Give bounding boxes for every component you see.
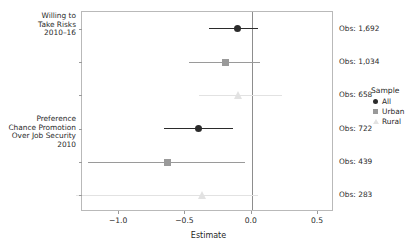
legend-item-label: All: [382, 97, 391, 106]
y-axis-tick: [79, 62, 82, 63]
legend-items: AllUrbanRural: [371, 97, 404, 126]
forest-plot-figure: Willing to Take Risks 2010–16 Preference…: [0, 0, 417, 249]
circle-marker-icon: [371, 99, 380, 104]
observation-count-label: Obs: 1,034: [339, 57, 379, 66]
observation-count-label: Obs: 1,692: [339, 23, 379, 32]
y-axis-tick: [79, 95, 82, 96]
y-axis-tick: [79, 129, 82, 130]
estimate-point-marker: [198, 191, 206, 199]
square-marker-icon: [371, 109, 380, 114]
estimate-point-marker: [195, 125, 202, 132]
legend-item-all[interactable]: All: [371, 97, 404, 106]
observation-count-label: Obs: 283: [339, 190, 372, 199]
legend-item-label: Urban: [382, 107, 404, 116]
estimate-point-marker: [234, 91, 242, 99]
x-axis-tick-label: −1.0: [109, 216, 127, 225]
estimate-point-marker: [234, 25, 241, 32]
estimate-point-marker: [164, 159, 171, 166]
legend: Sample AllUrbanRural: [371, 86, 404, 126]
confidence-interval-bar: [209, 28, 258, 29]
x-axis-title: Estimate: [0, 231, 417, 240]
y-axis-tick: [79, 162, 82, 163]
triangle-marker-icon: [371, 119, 380, 124]
x-axis-tick-label: 0.5: [311, 216, 323, 225]
y-axis-tick: [79, 195, 82, 196]
confidence-interval-bar: [76, 195, 258, 196]
zero-reference-line: [252, 12, 253, 210]
x-axis-tick: [118, 211, 119, 214]
x-axis-tick: [317, 211, 318, 214]
legend-item-urban[interactable]: Urban: [371, 107, 404, 116]
y-axis-group-label-preference-chance-promotion: Preference Chance Promotion Over Job Sec…: [8, 115, 76, 149]
x-axis-tick: [251, 211, 252, 214]
estimate-point-marker: [222, 59, 229, 66]
legend-item-rural[interactable]: Rural: [371, 117, 404, 126]
plot-panel: [81, 11, 333, 211]
x-axis-tick-label: 0.0: [245, 216, 257, 225]
y-axis-tick: [79, 29, 82, 30]
observation-count-label: Obs: 658: [339, 90, 372, 99]
x-axis-tick-label: −0.5: [175, 216, 193, 225]
observation-count-label: Obs: 722: [339, 123, 372, 132]
legend-title: Sample: [371, 86, 404, 95]
observation-count-label: Obs: 439: [339, 157, 372, 166]
y-axis-group-label-willing-to-take-risks: Willing to Take Risks 2010–16: [38, 12, 76, 38]
legend-item-label: Rural: [382, 117, 401, 126]
x-axis-tick: [184, 211, 185, 214]
